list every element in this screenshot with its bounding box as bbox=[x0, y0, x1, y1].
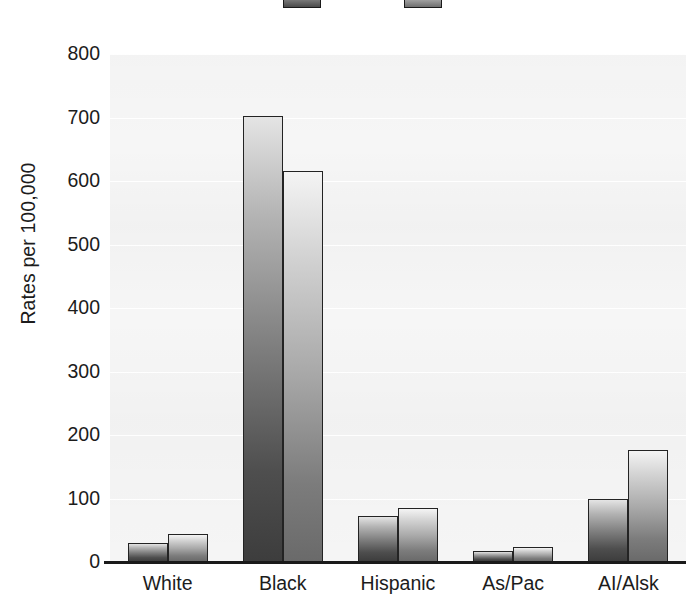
bar-as-pac-series-2 bbox=[513, 547, 553, 562]
y-axis-tick-label: 100 bbox=[30, 489, 100, 509]
bar-black-series-1 bbox=[243, 116, 283, 562]
gridline bbox=[110, 54, 686, 55]
legend-swatch-series-1 bbox=[283, 0, 321, 8]
bar-white-series-2 bbox=[168, 534, 208, 562]
bar-black-series-2 bbox=[283, 171, 323, 562]
bar-white-series-1 bbox=[128, 543, 168, 562]
y-axis-tick-label: 600 bbox=[30, 171, 100, 191]
x-axis-tick-label-white: White bbox=[110, 570, 225, 596]
y-axis-tick-label: 800 bbox=[30, 44, 100, 64]
y-axis-tick-label: 400 bbox=[30, 298, 100, 318]
x-axis-line bbox=[104, 561, 686, 564]
y-axis-tick-label: 0 bbox=[30, 552, 100, 572]
y-axis-ticks: 8007006005004003002001000 bbox=[30, 0, 100, 607]
y-axis-tick-label: 200 bbox=[30, 425, 100, 445]
legend-swatch-series-2 bbox=[404, 0, 442, 8]
x-axis-tick-label-ai-alsk: AI/Alsk bbox=[571, 570, 686, 596]
plot-area bbox=[110, 54, 686, 562]
y-axis-tick-label: 500 bbox=[30, 235, 100, 255]
x-axis-ticks: WhiteBlackHispanicAs/PacAI/Alsk bbox=[110, 570, 686, 604]
gridline bbox=[110, 181, 686, 182]
x-axis-tick-label-as-pac: As/Pac bbox=[456, 570, 571, 596]
gridline bbox=[110, 245, 686, 246]
bar-ai-alsk-series-2 bbox=[628, 450, 668, 562]
bar-hispanic-series-2 bbox=[398, 508, 438, 562]
gridline bbox=[110, 118, 686, 119]
chart-legend bbox=[0, 0, 686, 9]
gridline bbox=[110, 372, 686, 373]
x-axis-tick-label-black: Black bbox=[225, 570, 340, 596]
bar-hispanic-series-1 bbox=[358, 516, 398, 562]
gridline bbox=[110, 308, 686, 309]
y-axis-tick-label: 300 bbox=[30, 362, 100, 382]
y-axis-tick-label: 700 bbox=[30, 108, 100, 128]
gridline bbox=[110, 435, 686, 436]
bar-ai-alsk-series-1 bbox=[588, 499, 628, 563]
x-axis-tick-label-hispanic: Hispanic bbox=[340, 570, 455, 596]
